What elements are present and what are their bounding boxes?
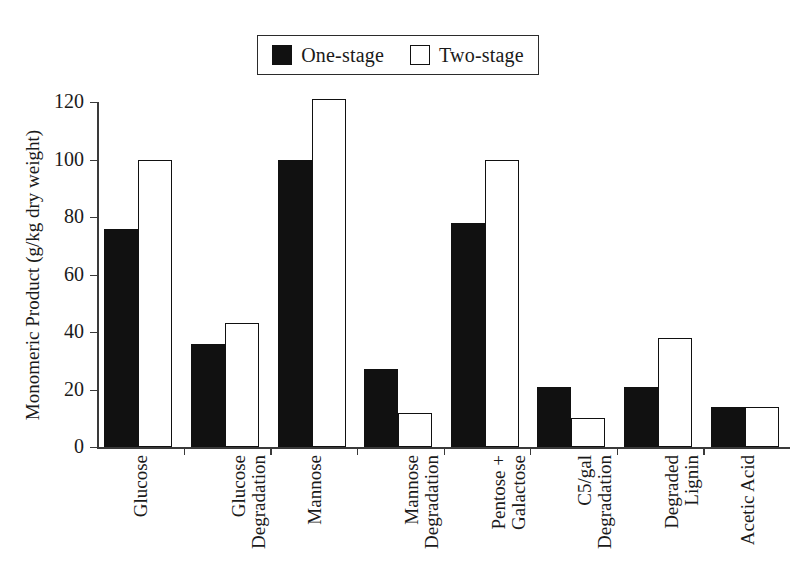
bar-group [364,102,432,447]
y-axis-tick: 120 [90,102,97,103]
y-axis-tick: 20 [90,390,97,391]
category-label-line: Galactose [509,455,529,584]
x-axis-category-label: Mannose [305,455,325,584]
x-axis-category-label: C5/galDegradation [575,455,615,584]
y-axis-tick: 40 [90,332,97,333]
bar-group [451,102,519,447]
category-label-line: Acetic Acid [738,455,758,584]
x-axis-category-label: Glucose [131,455,151,584]
category-label-line: Degradation [422,455,442,584]
category-label-line: C5/gal [575,455,595,584]
legend-label-two-stage: Two-stage [439,45,524,65]
x-axis-tick [357,447,358,455]
legend-swatch-open-square-icon [410,45,430,65]
bar-group [278,102,346,447]
y-axis-tick-label: 120 [54,90,84,113]
category-label-line: Mannose [402,455,422,584]
category-label-line: Lignin [682,455,702,584]
bar-chart-figure: One-stage Two-stage Monomeric Product (g… [0,0,811,584]
bar-two-stage[interactable] [138,160,172,448]
x-axis-category-label: GlucoseDegradation [229,455,269,584]
bar-two-stage[interactable] [225,323,259,447]
bar-one-stage[interactable] [451,223,485,447]
x-axis-tick [617,447,618,455]
x-axis-tick [444,447,445,455]
y-axis-title: Monomeric Product (g/kg dry weight) [22,95,52,455]
legend-entry-two-stage: Two-stage [410,45,524,65]
x-axis-category-label: MannoseDegradation [402,455,442,584]
y-axis-tick-label: 20 [64,378,84,401]
x-axis-category-label: Pentose +Galactose [489,455,529,584]
y-axis-tick-label: 40 [64,320,84,343]
bar-one-stage[interactable] [624,387,658,447]
plot-area: 020406080100120 [97,102,790,447]
bar-two-stage[interactable] [312,99,346,447]
bar-group [191,102,259,447]
chart-legend: One-stage Two-stage [257,35,539,75]
y-axis-tick: 100 [90,160,97,161]
x-axis-tick [270,447,271,455]
legend-entry-one-stage: One-stage [272,45,384,65]
category-label-line: Degradation [596,455,616,584]
bar-two-stage[interactable] [658,338,692,447]
y-axis-tick-label: 0 [74,435,84,458]
category-label-line: Glucose [229,455,249,584]
bar-group [624,102,692,447]
bar-two-stage[interactable] [571,418,605,447]
bar-group [537,102,605,447]
legend-swatch-filled-square-icon [272,45,292,65]
bar-group [711,102,779,447]
x-axis-category-label: Acetic Acid [738,455,758,584]
legend-label-one-stage: One-stage [301,45,384,65]
y-axis-tick-label: 60 [64,263,84,286]
category-label-line: Glucose [131,455,151,584]
bar-two-stage[interactable] [398,413,432,448]
bar-one-stage[interactable] [191,344,225,448]
y-axis-tick: 0 [90,447,97,448]
bar-one-stage[interactable] [537,387,571,447]
bar-two-stage[interactable] [485,160,519,448]
category-label-line: Mannose [305,455,325,584]
category-label-line: Pentose + [489,455,509,584]
bar-one-stage[interactable] [104,229,138,448]
bar-one-stage[interactable] [278,160,312,448]
x-axis-tick [530,447,531,455]
category-label-line: Degraded [662,455,682,584]
x-axis-category-label: DegradedLignin [662,455,702,584]
x-axis-tick [184,447,185,455]
bar-one-stage[interactable] [711,407,745,447]
bar-two-stage[interactable] [745,407,779,447]
y-axis-tick-label: 80 [64,205,84,228]
y-axis-line [97,102,99,447]
y-axis-tick: 80 [90,217,97,218]
category-label-line: Degradation [249,455,269,584]
x-axis-tick [703,447,704,455]
bar-one-stage[interactable] [364,369,398,447]
y-axis-tick: 60 [90,275,97,276]
y-axis-tick-label: 100 [54,148,84,171]
bar-group [104,102,172,447]
